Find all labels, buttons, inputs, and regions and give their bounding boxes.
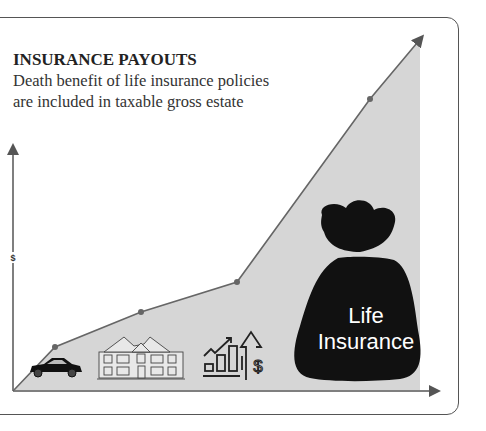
y-axis-label: $: [10, 253, 15, 263]
bag-label-line-1: Life: [296, 303, 436, 329]
page-title: INSURANCE PAYOUTS: [13, 50, 269, 70]
description-line-2: are included in taxable gross estate: [13, 91, 269, 112]
svg-text:$: $: [253, 357, 263, 376]
bag-label-line-2: Insurance: [296, 329, 436, 355]
header: INSURANCE PAYOUTS Death benefit of life …: [13, 50, 269, 112]
description-line-1: Death benefit of life insurance policies: [13, 70, 269, 91]
